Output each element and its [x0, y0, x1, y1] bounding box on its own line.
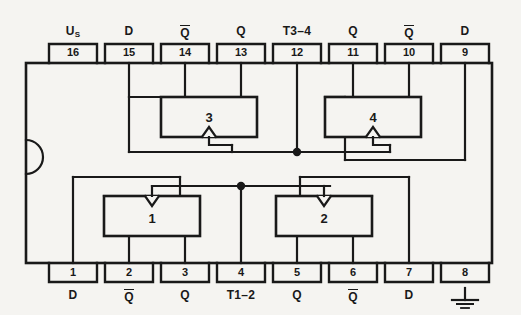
pin-number-10: 10: [385, 47, 433, 58]
ic-pinout-diagram: 16 15 14 13 12 11 10 9 US D Q Q T3–4 Q Q…: [0, 0, 521, 315]
pin-signal-14: Q: [161, 25, 209, 39]
pin-signal-5: Q: [273, 289, 321, 301]
flipflop-label-4: 4: [325, 111, 421, 124]
pin-number-8: 8: [441, 267, 489, 278]
pin-number-2: 2: [105, 267, 153, 278]
pin-signal-4: T1–2: [217, 289, 265, 301]
pin-signal-1: D: [49, 289, 97, 301]
flipflop-label-1: 1: [104, 212, 200, 225]
pin-signal-9: D: [441, 25, 489, 37]
flipflop-label-3: 3: [161, 111, 257, 124]
pin-signal-3: Q: [161, 289, 209, 301]
pin-signal-7: D: [385, 289, 433, 301]
pin-signal-16: US: [49, 25, 97, 37]
pin-number-3: 3: [161, 267, 209, 278]
pin-number-14: 14: [161, 47, 209, 58]
junction-dot-t3-4: [293, 148, 301, 156]
pin-number-16: 16: [49, 47, 97, 58]
pin-signal-15: D: [105, 25, 153, 37]
pin-signal-12: T3–4: [273, 25, 321, 37]
pin-number-5: 5: [273, 267, 321, 278]
pin-number-4: 4: [217, 267, 265, 278]
package-body: [26, 63, 492, 263]
pin-number-9: 9: [441, 47, 489, 58]
pin-number-13: 13: [217, 47, 265, 58]
pin-signal-10: Q: [385, 25, 433, 39]
pin-number-15: 15: [105, 47, 153, 58]
pin-number-11: 11: [329, 47, 377, 58]
pin-number-1: 1: [49, 267, 97, 278]
pin-signal-13: Q: [217, 25, 265, 37]
pin-number-7: 7: [385, 267, 433, 278]
pin-number-12: 12: [273, 47, 321, 58]
flipflop-label-2: 2: [276, 212, 372, 225]
pin-signal-11: Q: [329, 25, 377, 37]
ground-symbol-icon: [452, 288, 478, 308]
junction-dot-t1-2: [237, 182, 245, 190]
pin-signal-6: Q: [329, 289, 377, 303]
pin-signal-2: Q: [105, 289, 153, 303]
pin-number-6: 6: [329, 267, 377, 278]
